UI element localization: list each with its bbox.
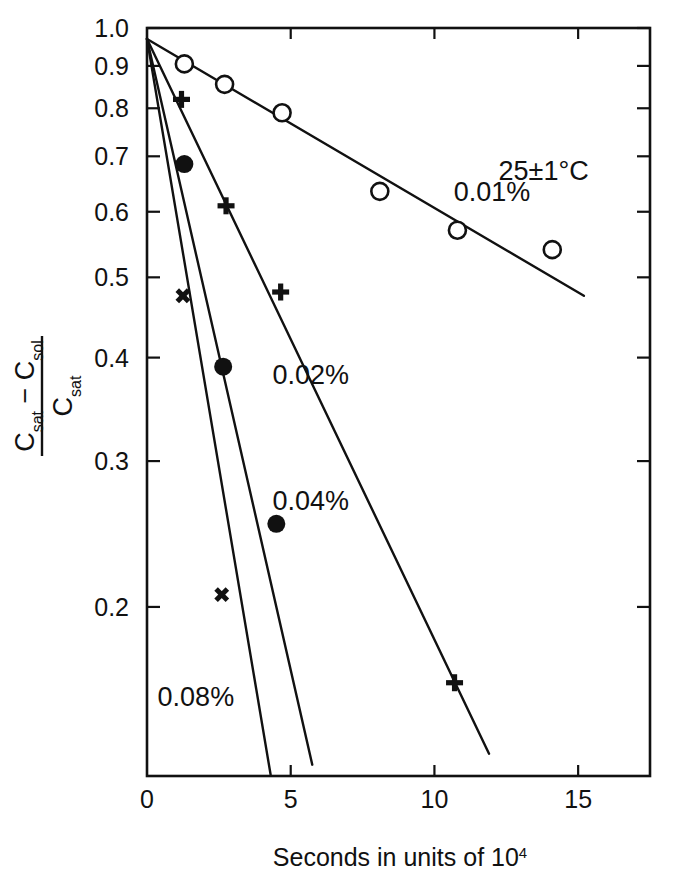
x-axis-title-base: Seconds in units of 10 [273,843,519,871]
filled-circle-marker [267,515,285,533]
fit-line-0.08 [147,39,271,775]
y-axis-title-numerator-part: C [10,432,40,452]
x-tick-label-15: 15 [564,785,592,813]
data-point-0.04-1 [214,358,232,376]
open-circle-marker [274,104,291,121]
series-label-001: 0.01% [454,177,531,207]
series-label-008: 0.08% [158,682,235,712]
y-axis-title-denominator-part: sat [67,375,84,397]
y-tick-label-0.6: 0.6 [94,198,129,226]
plus-marker-vertical [278,284,283,301]
y-tick-label-1.0: 1.0 [94,14,129,42]
y-tick-label-0.9: 0.9 [94,52,129,80]
y-axis-title-denominator-part: C [48,397,78,417]
plus-marker-vertical [452,674,457,691]
data-point-0.08-1 [214,587,229,602]
data-point-0.01-2 [274,104,291,121]
data-point-0.01-4 [449,222,466,239]
scatter-plot: 0510151.00.90.80.70.60.50.40.30.225±1°C0… [0,0,676,884]
data-point-0.01-0 [176,55,193,72]
data-point-0.04-2 [267,515,285,533]
y-tick-label-0.5: 0.5 [94,263,129,291]
series-label-002: 0.02% [273,360,350,390]
plus-marker-vertical [223,197,228,214]
data-point-0.02-2 [272,284,289,301]
series-label-004: 0.04% [273,486,350,516]
open-circle-marker [371,183,388,200]
y-tick-label-0.8: 0.8 [94,94,129,122]
open-circle-marker [216,76,233,93]
y-tick-label-0.4: 0.4 [94,344,129,372]
x-tick-label-5: 5 [284,785,298,813]
x-axis-title: Seconds in units of 104 [273,843,527,871]
open-circle-marker [176,55,193,72]
filled-circle-marker [214,358,232,376]
figure-container: 0510151.00.90.80.70.60.50.40.30.225±1°C0… [0,0,676,884]
data-point-0.02-0 [173,91,190,108]
data-point-0.01-1 [216,76,233,93]
filled-circle-marker [175,155,193,173]
y-tick-label-0.3: 0.3 [94,447,129,475]
y-tick-label-0.7: 0.7 [94,142,129,170]
y-axis-title-numerator-part: − [10,380,40,411]
plus-marker-vertical [179,91,184,108]
data-point-0.04-0 [175,155,193,173]
x-tick-label-0: 0 [140,785,154,813]
y-axis-title-numerator: Csat − Csol [10,340,46,452]
x-tick-label-10: 10 [421,785,449,813]
x-axis-title-exponent: 4 [519,844,527,861]
y-axis-title-denominator: Csat [48,375,84,416]
fit-line-0.04 [147,39,312,765]
plot-frame [147,28,650,776]
open-circle-marker [544,241,561,258]
open-circle-marker [449,222,466,239]
y-axis-title: Csat − CsolCsat [10,336,84,456]
data-point-0.01-5 [544,241,561,258]
data-point-0.08-0 [176,288,191,303]
y-axis-title-numerator-part: C [10,361,40,381]
data-point-0.02-1 [218,197,235,214]
y-tick-label-0.2: 0.2 [94,593,129,621]
data-point-0.02-3 [446,674,463,691]
data-point-0.01-3 [371,183,388,200]
fit-line-0.02 [147,39,489,754]
